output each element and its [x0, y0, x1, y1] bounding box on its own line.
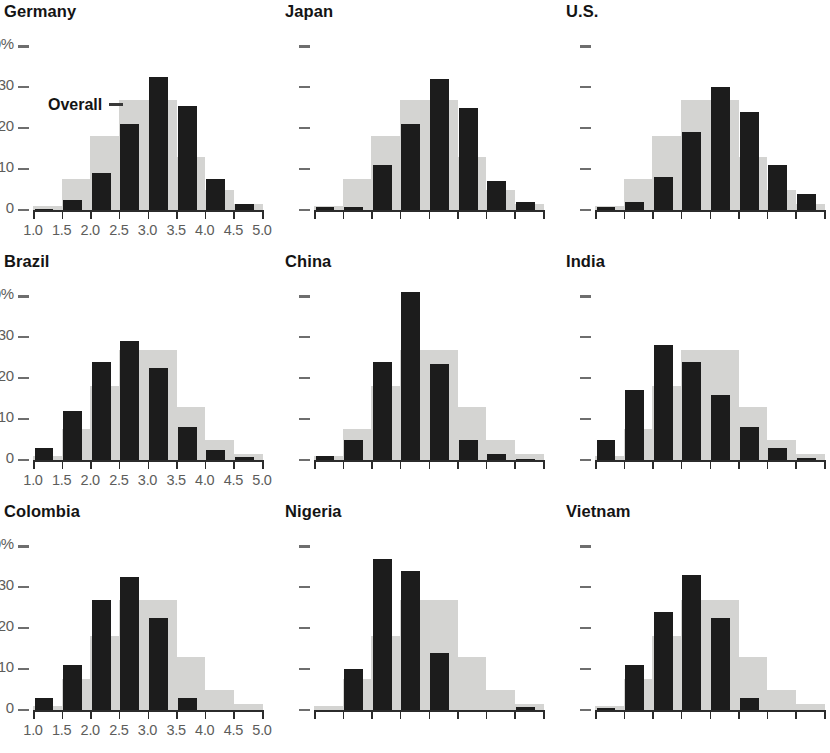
- bar-country: [149, 368, 168, 460]
- x-axis-tick: [710, 212, 712, 219]
- bar-country: [682, 575, 701, 710]
- x-axis-tick: [681, 712, 683, 719]
- bar-country: [654, 345, 673, 460]
- y-axis-label: 30: [0, 326, 14, 343]
- bar-country: [740, 427, 759, 460]
- bar-country: [682, 132, 701, 210]
- y-axis-tick: [580, 545, 591, 547]
- x-axis-tick: [738, 712, 740, 719]
- x-axis-tick: [205, 712, 207, 719]
- y-axis-tick: [299, 209, 310, 211]
- y-axis-label: 10: [0, 658, 14, 675]
- y-axis-label: 40%: [0, 535, 14, 552]
- y-axis-tick: [580, 709, 591, 711]
- x-axis-tick: [824, 462, 826, 469]
- y-axis-tick: [580, 127, 591, 129]
- y-axis-tick: [299, 336, 310, 338]
- bar-series-group: [595, 280, 824, 460]
- x-axis-tick: [176, 212, 178, 219]
- bar-country: [206, 179, 225, 210]
- bar-country: [459, 108, 478, 210]
- x-axis-label: 2.0: [81, 222, 100, 238]
- chart-panel-germany: Germany40%30201001.01.52.02.53.03.54.04.…: [0, 0, 281, 250]
- y-axis-tick: [18, 709, 29, 711]
- chart-panel-u-s: U.S.: [562, 0, 830, 250]
- x-axis-tick: [33, 462, 35, 469]
- x-axis-label-row: 1.01.52.02.53.03.54.04.55.0: [33, 722, 262, 742]
- x-axis-label: 1.0: [23, 472, 42, 488]
- x-axis-tick: [624, 212, 626, 219]
- x-axis-tick: [233, 712, 235, 719]
- bar-country: [768, 165, 787, 210]
- y-axis-tick: [580, 295, 591, 297]
- x-axis-label: 2.5: [109, 222, 128, 238]
- x-axis-tick: [543, 712, 545, 719]
- bar-country: [344, 669, 363, 710]
- bar-series-group: [33, 30, 262, 210]
- y-axis-tick: [580, 209, 591, 211]
- x-axis-label: 3.0: [138, 222, 157, 238]
- y-axis-tick: [580, 459, 591, 461]
- x-axis-tick: [652, 462, 654, 469]
- y-axis-tick: [580, 418, 591, 420]
- bar-country: [487, 181, 506, 210]
- x-axis-tick: [176, 462, 178, 469]
- x-axis-tick: [90, 462, 92, 469]
- y-axis-tick: [18, 545, 29, 547]
- x-axis-tick: [595, 462, 597, 469]
- y-axis-tick: [580, 336, 591, 338]
- bar-country: [120, 577, 139, 710]
- x-axis-tick: [681, 212, 683, 219]
- x-axis-tick: [62, 462, 64, 469]
- chart-panel-japan: Japan: [281, 0, 562, 250]
- x-axis-tick: [62, 712, 64, 719]
- x-axis-tick: [33, 712, 35, 719]
- overall-annotation-label: Overall: [48, 96, 102, 113]
- x-axis-tick: [595, 712, 597, 719]
- panel-title: Germany: [4, 2, 76, 21]
- x-axis-label-row: 1.01.52.02.53.03.54.04.55.0: [33, 472, 262, 492]
- bar-country: [711, 87, 730, 210]
- bar-country: [206, 450, 225, 460]
- panel-title: India: [566, 252, 605, 271]
- y-axis-tick: [299, 377, 310, 379]
- bar-country: [516, 202, 535, 210]
- x-axis-tick: [624, 712, 626, 719]
- x-axis-label: 2.0: [81, 722, 100, 738]
- bar-series-group: [314, 30, 543, 210]
- x-axis-label: 5.0: [252, 472, 271, 488]
- y-axis-tick: [299, 45, 310, 47]
- bar-country: [149, 77, 168, 210]
- bar-country: [740, 112, 759, 210]
- plot-area: [314, 30, 543, 210]
- x-axis-tick: [371, 212, 373, 219]
- x-axis-label: 2.5: [109, 472, 128, 488]
- bar-country: [401, 292, 420, 460]
- y-axis-label: 10: [0, 158, 14, 175]
- overall-series-annotation: Overall: [48, 96, 123, 114]
- x-axis-tick: [233, 212, 235, 219]
- y-axis-tick: [580, 377, 591, 379]
- x-axis-tick: [652, 712, 654, 719]
- plot-area: [33, 30, 262, 210]
- plot-area: [595, 530, 824, 710]
- x-axis-label: 5.0: [252, 222, 271, 238]
- bar-overall: [343, 179, 372, 210]
- bar-country: [654, 612, 673, 710]
- x-axis-label: 1.0: [23, 222, 42, 238]
- y-axis-label: 0: [6, 199, 14, 216]
- x-axis-tick: [262, 462, 264, 469]
- x-axis-tick: [262, 212, 264, 219]
- y-axis-tick: [580, 45, 591, 47]
- bar-country: [178, 106, 197, 210]
- x-axis-tick: [543, 212, 545, 219]
- bar-country: [740, 698, 759, 710]
- chart-panel-india: India: [562, 250, 830, 500]
- x-axis-tick: [343, 462, 345, 469]
- bar-series-group: [314, 530, 543, 710]
- panel-title: Japan: [285, 2, 333, 21]
- y-axis-tick: [580, 668, 591, 670]
- x-axis-tick: [457, 712, 459, 719]
- x-axis-tick: [795, 212, 797, 219]
